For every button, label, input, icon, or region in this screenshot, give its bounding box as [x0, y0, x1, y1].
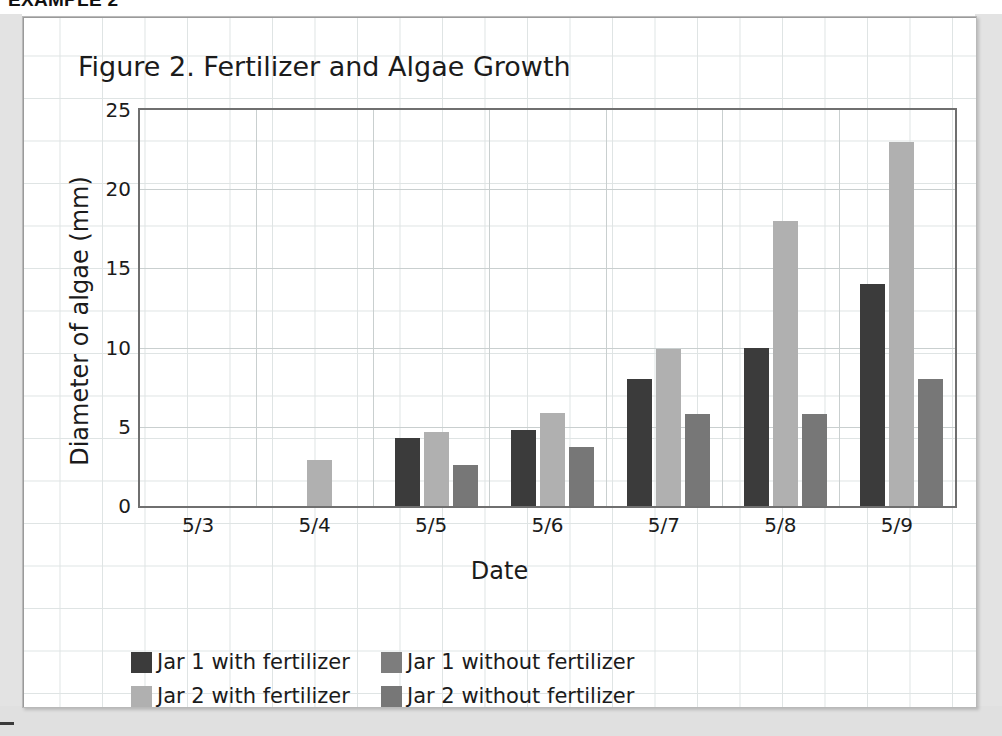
- bar: [860, 284, 885, 506]
- chart-title: Figure 2. Fertilizer and Algae Growth: [78, 51, 571, 82]
- x-tick-label: 5/7: [648, 513, 680, 537]
- legend-item: Jar 1 without fertilizer: [381, 650, 634, 674]
- legend-row: Jar 2 with fertilizerJar 2 without ferti…: [131, 679, 651, 708]
- y-tick-label: 25: [87, 98, 131, 122]
- bar-group: [256, 110, 372, 506]
- legend-swatch-icon: [131, 652, 152, 673]
- bar: [889, 142, 914, 506]
- bar: [453, 465, 478, 506]
- legend-item: Jar 2 without fertilizer: [381, 684, 634, 708]
- legend-row: Jar 1 with fertilizerJar 1 without ferti…: [131, 645, 651, 679]
- page-right-margin: [975, 14, 1002, 722]
- bar: [307, 460, 332, 506]
- x-tick-label: 5/9: [881, 513, 913, 537]
- legend-item: Jar 2 with fertilizer: [131, 684, 381, 708]
- y-tick-label: 5: [87, 415, 131, 439]
- bar-group: [489, 110, 605, 506]
- y-tick-label: 0: [87, 494, 131, 518]
- legend-label: Jar 2 without fertilizer: [407, 684, 634, 708]
- bar: [569, 447, 594, 506]
- bar: [918, 379, 943, 506]
- bar-group: [722, 110, 838, 506]
- bar-group: [373, 110, 489, 506]
- bar: [656, 349, 681, 506]
- y-tick-label: 15: [87, 256, 131, 280]
- legend-label: Jar 1 without fertilizer: [407, 650, 634, 674]
- bar-group: [140, 110, 256, 506]
- bar: [627, 379, 652, 506]
- bar-group: [606, 110, 722, 506]
- bar: [685, 414, 710, 506]
- bar-series-container: [140, 110, 955, 506]
- legend-swatch-icon: [131, 686, 152, 707]
- legend-swatch-icon: [381, 652, 402, 673]
- bar: [540, 413, 565, 506]
- legend-label: Jar 2 with fertilizer: [157, 684, 350, 708]
- bar: [424, 432, 449, 506]
- x-tick-label: 5/3: [182, 513, 214, 537]
- page-bottom-margin: [0, 706, 1002, 736]
- bar: [802, 414, 827, 506]
- page-bottom-tick: [0, 722, 14, 725]
- legend-label: Jar 1 with fertilizer: [157, 650, 350, 674]
- bar: [511, 430, 536, 506]
- bar: [773, 221, 798, 506]
- x-tick-label: 5/4: [299, 513, 331, 537]
- y-tick-label: 10: [87, 336, 131, 360]
- y-axis-ticks: 0510152025: [85, 108, 131, 508]
- y-tick-label: 20: [87, 177, 131, 201]
- x-tick-label: 5/8: [764, 513, 796, 537]
- legend-swatch-icon: [381, 686, 402, 707]
- bar: [744, 348, 769, 506]
- x-axis-label: Date: [23, 557, 976, 585]
- page-left-margin: [0, 14, 22, 722]
- chart-legend: Jar 1 with fertilizerJar 1 without ferti…: [131, 645, 651, 708]
- bar: [395, 438, 420, 506]
- x-tick-label: 5/5: [415, 513, 447, 537]
- x-axis-ticks: 5/35/45/55/65/75/85/9: [140, 513, 955, 543]
- chart-card: Figure 2. Fertilizer and Algae Growth Di…: [22, 16, 977, 708]
- example-heading: EXAMPLE 2: [8, 0, 118, 11]
- x-tick-label: 5/6: [531, 513, 563, 537]
- legend-item: Jar 1 with fertilizer: [131, 650, 381, 674]
- bar-group: [839, 110, 955, 506]
